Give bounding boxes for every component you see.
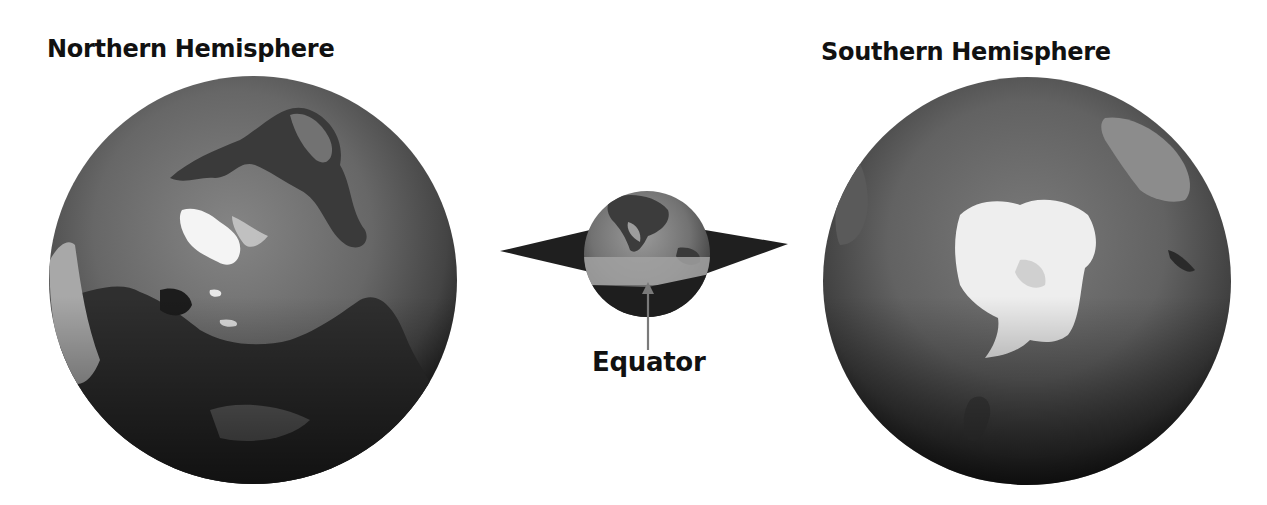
southern-hemisphere-globe	[810, 60, 1240, 490]
northern-hemisphere-globe	[40, 60, 470, 490]
hemispheres-diagram	[0, 0, 1267, 505]
northern-hemisphere-title: Northern Hemisphere	[47, 37, 334, 61]
equator-globe	[500, 191, 788, 350]
southern-hemisphere-title: Southern Hemisphere	[821, 40, 1111, 64]
equatorial-plane-left	[500, 230, 590, 272]
equatorial-plane-right	[705, 230, 788, 274]
equator-label: Equator	[592, 349, 705, 375]
